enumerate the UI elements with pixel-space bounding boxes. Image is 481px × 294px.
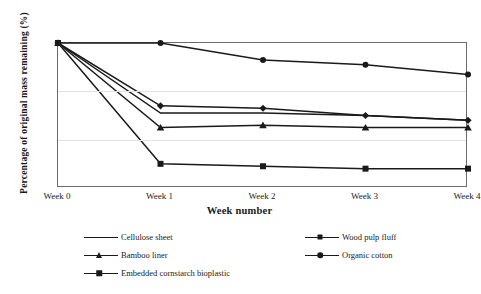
data-point-marker [259, 105, 266, 112]
x-axis-tick-label: Week 0 [43, 191, 70, 201]
data-point-marker [465, 166, 471, 172]
x-axis-tick-label: Week 3 [351, 191, 378, 201]
data-point-marker [363, 166, 369, 172]
legend-marker-icon [84, 232, 118, 242]
data-point-marker [465, 71, 471, 77]
data-point-marker [260, 163, 266, 169]
data-point-marker [362, 112, 369, 119]
series-lines [58, 43, 468, 188]
x-axis-tick-label: Week 4 [453, 191, 480, 201]
x-axis-tick-label: Week 1 [146, 191, 173, 201]
legend-marker-icon [305, 232, 339, 242]
plot-area [57, 42, 467, 187]
legend-label: Cellulose sheet [121, 232, 173, 242]
chart-legend: Cellulose sheetWood pulp fluffBamboo lin… [0, 232, 479, 290]
legend-marker-icon [84, 250, 118, 260]
legend-item[interactable]: Wood pulp fluff [305, 232, 396, 242]
legend-label: Organic cotton [342, 250, 393, 260]
data-point-marker [260, 57, 266, 63]
legend-item[interactable]: Cellulose sheet [84, 232, 173, 242]
legend-item[interactable]: Embedded cornstarch bioplastic [84, 268, 230, 278]
legend-item[interactable]: Organic cotton [305, 250, 393, 260]
data-point-marker [55, 40, 61, 46]
data-point-marker [158, 161, 164, 167]
x-axis-tick-label: Week 2 [248, 191, 275, 201]
gridline [58, 140, 466, 141]
data-point-marker [363, 62, 369, 68]
legend-marker-icon [84, 268, 118, 278]
legend-marker-icon [305, 250, 339, 260]
legend-label: Bamboo liner [121, 250, 168, 260]
data-point-marker [158, 40, 164, 46]
data-point-marker [157, 102, 164, 109]
legend-label: Wood pulp fluff [342, 232, 396, 242]
legend-label: Embedded cornstarch bioplastic [121, 268, 230, 278]
legend-item[interactable]: Bamboo liner [84, 250, 168, 260]
x-axis-title: Week number [0, 205, 479, 216]
gridline [58, 91, 466, 92]
